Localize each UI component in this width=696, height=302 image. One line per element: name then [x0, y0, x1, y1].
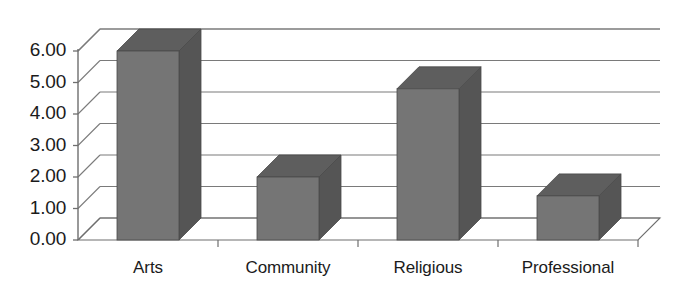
y-tick-label: 2.00	[4, 165, 66, 187]
bar-community	[257, 155, 341, 240]
bar-front-face	[397, 89, 459, 240]
x-category-label: Arts	[78, 258, 218, 278]
gridline-depth-4.00	[78, 92, 100, 114]
y-tick-label: 1.00	[4, 197, 66, 219]
bar-chart: 0.001.002.003.004.005.006.00 ArtsCommuni…	[0, 0, 696, 302]
y-tick-label: 5.00	[4, 71, 66, 93]
y-tick-label: 4.00	[4, 102, 66, 124]
bar-professional	[537, 174, 621, 240]
chart-plot-area	[0, 0, 696, 302]
bar-front-face	[117, 51, 179, 240]
bar-religious	[397, 67, 481, 240]
x-category-label: Religious	[358, 258, 498, 278]
gridline-depth-5.00	[78, 61, 100, 83]
y-tick-label: 6.00	[4, 39, 66, 61]
bar-front-face	[257, 177, 319, 240]
y-tick-label: 3.00	[4, 134, 66, 156]
gridline-depth-2.00	[78, 155, 100, 177]
gridline-depth-3.00	[78, 124, 100, 146]
bar-front-face	[537, 196, 599, 240]
y-tick-label: 0.00	[4, 228, 66, 250]
bar-side-face	[459, 67, 481, 240]
x-category-label: Community	[218, 258, 358, 278]
bar-arts	[117, 29, 201, 240]
gridline-depth-1.00	[78, 187, 100, 209]
bar-side-face	[179, 29, 201, 240]
x-category-label: Professional	[498, 258, 638, 278]
